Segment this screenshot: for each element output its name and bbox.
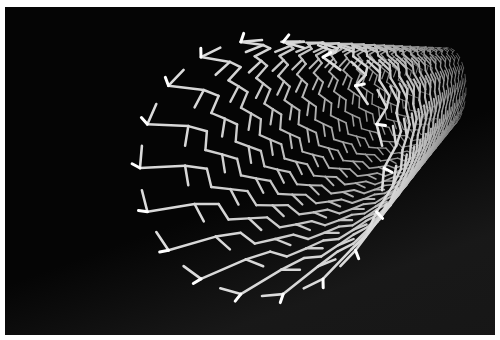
nanotube-image [5, 7, 495, 335]
carbon-nanotube-render [5, 7, 495, 335]
